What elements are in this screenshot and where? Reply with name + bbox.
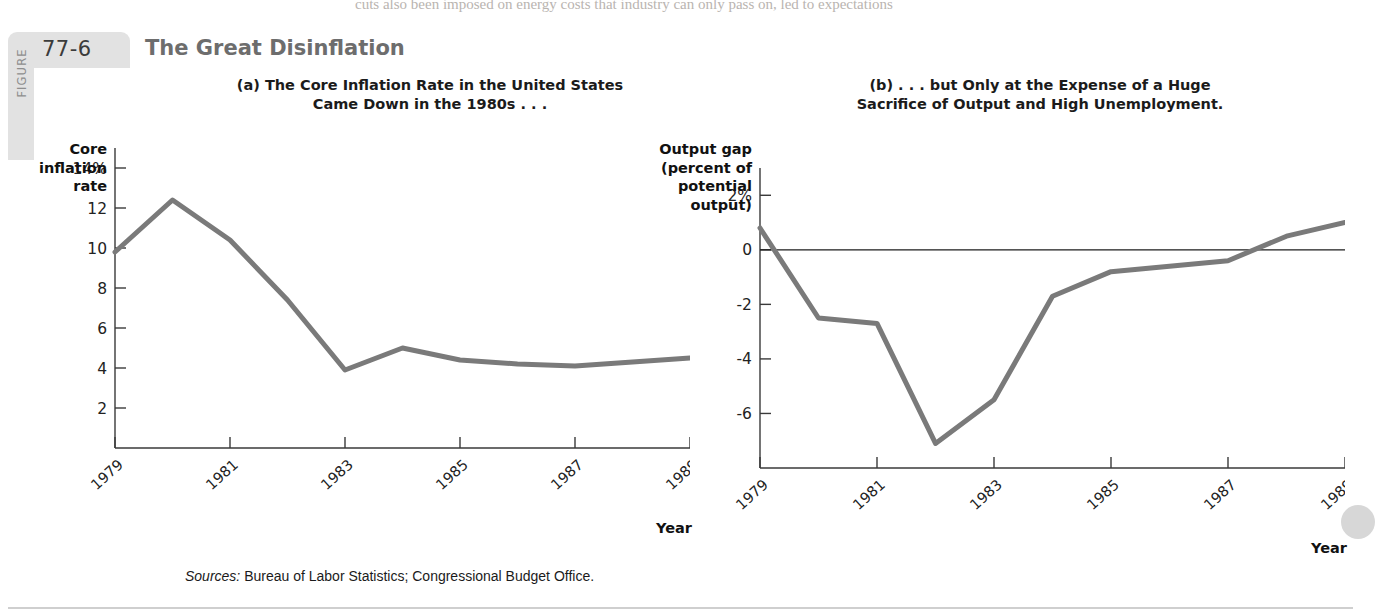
page-thumb-mark bbox=[1341, 505, 1375, 539]
x-tick-label: 1981 bbox=[850, 476, 888, 513]
y-tick-label: -4 bbox=[737, 350, 752, 368]
y-axis-label-line: inflation bbox=[0, 159, 107, 178]
x-tick-label: 1987 bbox=[548, 456, 586, 493]
x-tick-label: 1979 bbox=[733, 476, 771, 513]
x-tick-label: 1979 bbox=[88, 456, 126, 493]
x-tick-label: 1985 bbox=[433, 456, 471, 493]
sources-text: Bureau of Labor Statistics; Congressiona… bbox=[240, 568, 594, 584]
figure-number: 77-6 bbox=[42, 37, 92, 61]
x-tick-label: 1987 bbox=[1201, 476, 1239, 513]
panel-a-title-line1: (a) The Core Inflation Rate in the Unite… bbox=[170, 76, 690, 95]
y-axis-label-line: Output gap bbox=[610, 140, 752, 159]
y-tick-label: 6 bbox=[97, 320, 107, 338]
panel-a-title: (a) The Core Inflation Rate in the Unite… bbox=[170, 76, 690, 114]
y-axis-label: Output gap(percent ofpotentialoutput) bbox=[610, 140, 752, 214]
sources-prefix: Sources: bbox=[185, 568, 240, 584]
y-tick-label: 4 bbox=[97, 360, 107, 378]
y-axis-label-line: Core bbox=[0, 140, 107, 159]
y-tick-label: 8 bbox=[97, 280, 107, 298]
x-tick-label: 1983 bbox=[967, 476, 1005, 513]
chart-svg-b: 2%0-2-4-6197919811983198519871989 bbox=[685, 140, 1345, 560]
y-tick-label: -2 bbox=[737, 296, 752, 314]
chart-panel-a: 14%12108642197919811983198519871989Corei… bbox=[60, 140, 690, 560]
y-tick-label: 2 bbox=[97, 400, 107, 418]
y-tick-label: 10 bbox=[87, 240, 107, 258]
sources-note: Sources: Bureau of Labor Statistics; Con… bbox=[185, 568, 594, 584]
x-tick-label: 1985 bbox=[1084, 476, 1122, 513]
y-tick-label: 0 bbox=[742, 241, 752, 259]
chart-panel-b: 2%0-2-4-6197919811983198519871989Output … bbox=[685, 140, 1345, 560]
y-tick-label: 12 bbox=[87, 200, 107, 218]
x-tick-label: 1989 bbox=[1318, 476, 1345, 513]
chart-svg-a: 14%12108642197919811983198519871989 bbox=[60, 140, 690, 560]
y-axis-label: Coreinflationrate bbox=[0, 140, 107, 196]
y-axis-label-line: output) bbox=[610, 196, 752, 215]
y-axis-label-line: (percent of bbox=[610, 159, 752, 178]
panel-a-title-line2: Came Down in the 1980s . . . bbox=[170, 95, 690, 114]
data-line-b bbox=[760, 223, 1345, 444]
panel-b-title-line2: Sacrifice of Output and High Unemploymen… bbox=[790, 95, 1290, 114]
x-tick-label: 1981 bbox=[203, 456, 241, 493]
x-tick-label: 1983 bbox=[318, 456, 356, 493]
data-line-a bbox=[115, 200, 690, 370]
y-axis-label-line: rate bbox=[0, 177, 107, 196]
page-bleed-text: cuts also been imposed on energy costs t… bbox=[355, 0, 1255, 12]
page-bottom-rule bbox=[8, 607, 1353, 609]
figure-label-word: FIGURE bbox=[15, 27, 29, 119]
figure-title: The Great Disinflation bbox=[145, 36, 405, 60]
panel-b-title: (b) . . . but Only at the Expense of a H… bbox=[790, 76, 1290, 114]
y-tick-label: -6 bbox=[737, 405, 752, 423]
y-axis-label-line: potential bbox=[610, 177, 752, 196]
x-axis-label: Year bbox=[1311, 540, 1347, 556]
panel-b-title-line1: (b) . . . but Only at the Expense of a H… bbox=[790, 76, 1290, 95]
